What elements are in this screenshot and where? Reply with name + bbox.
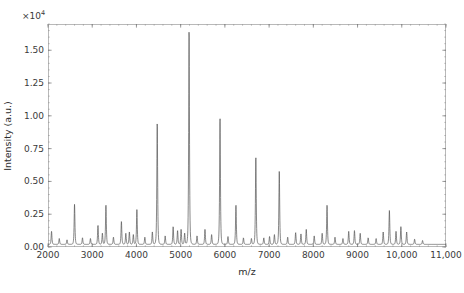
y-axis-tick-label: 0.50	[6, 176, 44, 186]
x-axis-tick-label: 9000	[346, 250, 369, 260]
y-axis-multiplier: ×104	[22, 9, 45, 21]
y-axis-tick-label: 0.25	[6, 209, 44, 219]
y-axis-multiplier-exponent: 4	[41, 9, 45, 17]
y-axis-tick-label: 1.00	[6, 111, 44, 121]
spectrum-path	[48, 32, 446, 244]
x-axis-tick-label: 3000	[81, 250, 104, 260]
x-axis-title: m/z	[48, 266, 446, 277]
x-axis-tick-label: 10,000	[386, 250, 418, 260]
x-axis-tick-labels: 2000300040005000600070008000900010,00011…	[48, 250, 446, 264]
y-axis-tick-label: 0.75	[6, 144, 44, 154]
y-axis-multiplier-base: ×10	[22, 11, 41, 21]
x-axis-tick-label: 11,000	[430, 250, 462, 260]
spectrum-trace	[48, 24, 446, 247]
x-axis-tick-label: 2000	[37, 250, 60, 260]
y-axis-tick-labels: 0.000.250.500.751.001.251.50	[2, 24, 44, 247]
x-axis-tick-label: 6000	[213, 250, 236, 260]
x-axis-tick-label: 8000	[302, 250, 325, 260]
x-axis-tick-label: 7000	[258, 250, 281, 260]
y-axis-tick-label: 1.50	[6, 45, 44, 55]
x-axis-tick-label: 5000	[169, 250, 192, 260]
mass-spectrum-figure: ×104 Intensity (a.u.) 0.000.250.500.751.…	[0, 0, 464, 293]
y-axis-tick-label: 1.25	[6, 78, 44, 88]
x-axis-tick-label: 4000	[125, 250, 148, 260]
